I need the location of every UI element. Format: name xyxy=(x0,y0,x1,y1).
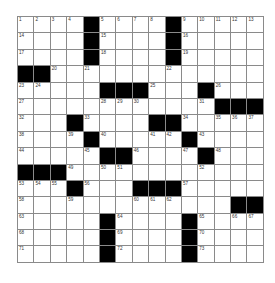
grid-cell[interactable]: 62 xyxy=(166,197,182,213)
grid-cell[interactable] xyxy=(247,66,263,82)
grid-cell[interactable] xyxy=(51,148,67,164)
grid-cell[interactable]: 21 xyxy=(84,66,100,82)
grid-cell[interactable]: 72 xyxy=(116,246,132,262)
grid-cell[interactable] xyxy=(100,115,116,131)
grid-cell[interactable] xyxy=(84,246,100,262)
grid-cell[interactable] xyxy=(133,66,149,82)
grid-cell[interactable] xyxy=(166,165,182,181)
grid-cell[interactable] xyxy=(198,181,214,197)
grid-cell[interactable]: 19 xyxy=(182,50,198,66)
grid-cell[interactable]: 35 xyxy=(215,115,231,131)
grid-cell[interactable] xyxy=(198,66,214,82)
grid-cell[interactable]: 70 xyxy=(198,230,214,246)
grid-cell[interactable]: 45 xyxy=(84,148,100,164)
grid-cell[interactable]: 14 xyxy=(18,33,34,49)
grid-cell[interactable]: 52 xyxy=(198,165,214,181)
grid-cell[interactable] xyxy=(149,99,165,115)
grid-cell[interactable]: 12 xyxy=(231,17,247,33)
grid-cell[interactable]: 4 xyxy=(67,17,83,33)
grid-cell[interactable]: 50 xyxy=(100,165,116,181)
grid-cell[interactable] xyxy=(34,99,50,115)
grid-cell[interactable] xyxy=(247,148,263,164)
grid-cell[interactable] xyxy=(149,214,165,230)
grid-cell[interactable] xyxy=(100,66,116,82)
grid-cell[interactable] xyxy=(116,66,132,82)
grid-cell[interactable]: 68 xyxy=(18,230,34,246)
grid-cell[interactable]: 8 xyxy=(149,17,165,33)
grid-cell[interactable] xyxy=(133,230,149,246)
grid-cell[interactable]: 32 xyxy=(18,115,34,131)
grid-cell[interactable]: 56 xyxy=(84,181,100,197)
grid-cell[interactable] xyxy=(67,50,83,66)
grid-cell[interactable]: 71 xyxy=(18,246,34,262)
grid-cell[interactable] xyxy=(182,197,198,213)
grid-cell[interactable] xyxy=(116,33,132,49)
grid-cell[interactable] xyxy=(34,197,50,213)
grid-cell[interactable] xyxy=(51,132,67,148)
grid-cell[interactable] xyxy=(231,165,247,181)
grid-cell[interactable]: 59 xyxy=(67,197,83,213)
grid-cell[interactable] xyxy=(231,148,247,164)
grid-cell[interactable] xyxy=(100,197,116,213)
grid-cell[interactable] xyxy=(84,230,100,246)
grid-cell[interactable]: 37 xyxy=(247,115,263,131)
grid-cell[interactable]: 27 xyxy=(18,99,34,115)
grid-cell[interactable]: 46 xyxy=(133,148,149,164)
grid-cell[interactable]: 66 xyxy=(231,214,247,230)
grid-cell[interactable] xyxy=(215,230,231,246)
grid-cell[interactable] xyxy=(51,230,67,246)
grid-cell[interactable]: 57 xyxy=(182,181,198,197)
grid-cell[interactable] xyxy=(34,115,50,131)
grid-cell[interactable] xyxy=(166,83,182,99)
grid-cell[interactable]: 61 xyxy=(149,197,165,213)
grid-cell[interactable] xyxy=(215,165,231,181)
grid-cell[interactable]: 20 xyxy=(51,66,67,82)
grid-cell[interactable]: 6 xyxy=(116,17,132,33)
grid-cell[interactable] xyxy=(215,33,231,49)
grid-cell[interactable]: 53 xyxy=(18,181,34,197)
grid-cell[interactable] xyxy=(215,66,231,82)
grid-cell[interactable] xyxy=(182,66,198,82)
grid-cell[interactable] xyxy=(34,246,50,262)
grid-cell[interactable] xyxy=(166,230,182,246)
grid-cell[interactable] xyxy=(84,99,100,115)
grid-cell[interactable] xyxy=(34,50,50,66)
grid-cell[interactable] xyxy=(34,230,50,246)
grid-cell[interactable]: 55 xyxy=(51,181,67,197)
grid-cell[interactable]: 1 xyxy=(18,17,34,33)
grid-cell[interactable]: 25 xyxy=(149,83,165,99)
grid-cell[interactable]: 39 xyxy=(67,132,83,148)
grid-cell[interactable]: 3 xyxy=(51,17,67,33)
grid-cell[interactable]: 34 xyxy=(182,115,198,131)
grid-cell[interactable] xyxy=(231,83,247,99)
grid-cell[interactable] xyxy=(149,33,165,49)
grid-cell[interactable] xyxy=(34,148,50,164)
grid-cell[interactable]: 15 xyxy=(100,33,116,49)
grid-cell[interactable]: 48 xyxy=(215,148,231,164)
grid-cell[interactable] xyxy=(116,115,132,131)
grid-cell[interactable] xyxy=(51,33,67,49)
grid-cell[interactable]: 29 xyxy=(116,99,132,115)
grid-cell[interactable] xyxy=(215,214,231,230)
grid-cell[interactable] xyxy=(51,214,67,230)
grid-cell[interactable]: 11 xyxy=(215,17,231,33)
grid-cell[interactable] xyxy=(182,99,198,115)
grid-cell[interactable]: 73 xyxy=(198,246,214,262)
grid-cell[interactable] xyxy=(67,230,83,246)
grid-cell[interactable] xyxy=(100,181,116,197)
grid-cell[interactable] xyxy=(51,246,67,262)
grid-cell[interactable] xyxy=(34,214,50,230)
grid-cell[interactable]: 17 xyxy=(18,50,34,66)
grid-cell[interactable] xyxy=(34,33,50,49)
grid-cell[interactable] xyxy=(247,33,263,49)
grid-cell[interactable]: 22 xyxy=(166,66,182,82)
grid-cell[interactable] xyxy=(84,214,100,230)
grid-cell[interactable]: 60 xyxy=(133,197,149,213)
grid-cell[interactable]: 43 xyxy=(198,132,214,148)
grid-cell[interactable] xyxy=(149,148,165,164)
grid-cell[interactable] xyxy=(247,132,263,148)
grid-cell[interactable] xyxy=(133,246,149,262)
grid-cell[interactable] xyxy=(166,246,182,262)
grid-cell[interactable] xyxy=(84,197,100,213)
grid-cell[interactable] xyxy=(231,132,247,148)
